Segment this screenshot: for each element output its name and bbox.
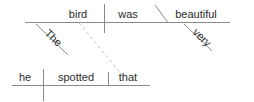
clause-connector-dashed-line — [79, 23, 120, 72]
word-spotted: spotted — [58, 71, 94, 83]
sentence-diagram: bird was beautiful The very he spotted t… — [0, 0, 254, 102]
word-beautiful: beautiful — [175, 8, 217, 20]
word-that: that — [119, 71, 137, 83]
word-the: The — [43, 27, 65, 49]
word-very: very — [191, 26, 215, 49]
word-was: was — [117, 8, 138, 20]
word-he: he — [19, 71, 31, 83]
word-bird: bird — [69, 8, 87, 20]
predicate-adjective-divider — [155, 5, 168, 23]
diagram-canvas: bird was beautiful The very he spotted t… — [0, 0, 254, 102]
